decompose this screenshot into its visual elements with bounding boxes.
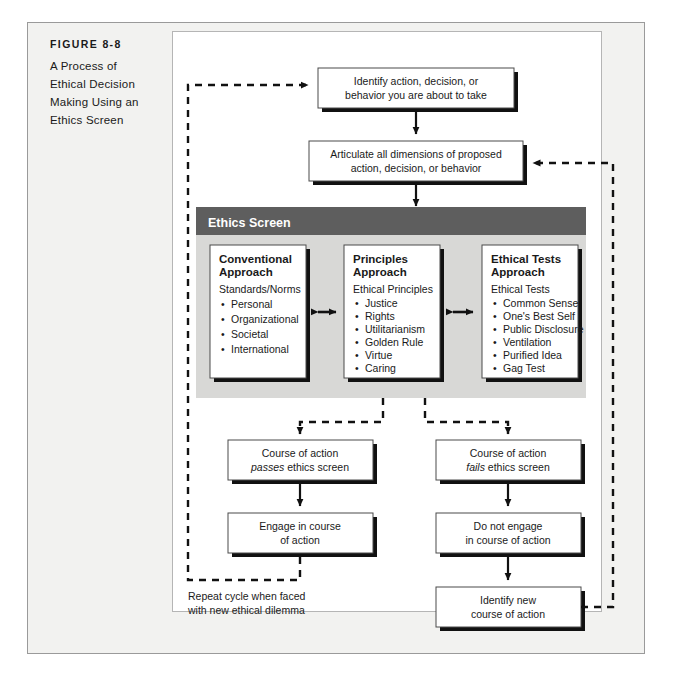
emphasis-fails: fails: [466, 461, 485, 473]
approach-item: Societal: [231, 328, 268, 340]
approach-item: Organizational: [231, 313, 299, 325]
box-line-rest: ethics screen: [488, 461, 550, 473]
approach-subhead: Ethical Tests: [491, 283, 550, 295]
box-body: [318, 68, 514, 108]
box-engage-in-course: Engage in course of action: [228, 513, 377, 557]
box-body: [228, 440, 373, 480]
bullet-marker: •: [221, 313, 225, 325]
approach-heading-line: Approach: [219, 266, 273, 278]
bullet-marker: •: [355, 336, 359, 348]
repeat-note-line: Repeat cycle when faced: [188, 590, 305, 602]
box-body: [309, 141, 523, 181]
bullet-marker: •: [221, 343, 225, 355]
box-course-fails: Course of action fails ethics screen: [436, 440, 585, 484]
box-line: Engage in course: [259, 520, 341, 532]
approach-heading-line: Approach: [491, 266, 545, 278]
bullet-marker: •: [493, 336, 497, 348]
bullet-marker: •: [355, 297, 359, 309]
bullet-marker: •: [493, 323, 497, 335]
box-line: Course of action: [470, 447, 547, 459]
box-line-italic-pair: passes ethics screen: [250, 461, 349, 473]
box-identify-action: Identify action, decision, or behavior y…: [318, 68, 518, 112]
approach-item: Rights: [365, 310, 395, 322]
approach-item: One's Best Self: [503, 310, 575, 322]
bullet-marker: •: [493, 297, 497, 309]
approach-item: Caring: [365, 362, 396, 374]
approach-item: Public Disclosure: [503, 323, 584, 335]
box-line: Identify action, decision, or: [354, 75, 479, 87]
box-body: [436, 587, 581, 627]
approach-item: Gag Test: [503, 362, 545, 374]
bullet-marker: •: [355, 349, 359, 361]
approach-item: Purified Idea: [503, 349, 562, 361]
bullet-marker: •: [493, 349, 497, 361]
approach-heading-line: Approach: [353, 266, 407, 278]
box-course-passes: Course of action passes ethics screen: [228, 440, 377, 484]
connector-screen-to-pass: [300, 398, 383, 434]
approach-box-ethical-tests: Ethical Tests Approach Ethical Tests • C…: [482, 245, 584, 382]
repeat-note-line: with new ethical dilemma: [187, 604, 305, 616]
bullet-marker: •: [493, 310, 497, 322]
approach-heading-line: Conventional: [219, 253, 292, 265]
emphasis-passes: passes: [250, 461, 285, 473]
box-line-italic-pair: fails ethics screen: [466, 461, 550, 473]
repeat-cycle-note: Repeat cycle when faced with new ethical…: [187, 590, 305, 616]
approach-heading-line: Ethical Tests: [491, 253, 561, 265]
bullet-marker: •: [355, 310, 359, 322]
bullet-marker: •: [221, 298, 225, 310]
bullet-marker: •: [493, 362, 497, 374]
box-line-rest: ethics screen: [287, 461, 349, 473]
box-line: Identify new: [480, 594, 536, 606]
box-line: Articulate all dimensions of proposed: [330, 148, 502, 160]
approach-item: International: [231, 343, 289, 355]
approach-item: Utilitarianism: [365, 323, 425, 335]
box-line: of action: [280, 534, 320, 546]
box-line: course of action: [471, 608, 545, 620]
box-body: [436, 440, 581, 480]
approach-subhead: Ethical Principles: [353, 283, 433, 295]
box-body: [436, 513, 581, 553]
figure-page: FIGURE 8-8 A Process of Ethical Decision…: [0, 0, 673, 679]
box-do-not-engage: Do not engage in course of action: [436, 513, 585, 557]
approach-box-conventional: Conventional Approach Standards/Norms • …: [210, 245, 310, 382]
approach-heading-line: Principles: [353, 253, 408, 265]
approach-box-principles: Principles Approach Ethical Principles •…: [344, 245, 444, 382]
approach-item: Justice: [365, 297, 398, 309]
approach-subhead: Standards/Norms: [219, 283, 301, 295]
approach-item: Ventilation: [503, 336, 552, 348]
box-line: action, decision, or behavior: [351, 162, 482, 174]
ethics-screen-title: Ethics Screen: [208, 216, 291, 230]
box-identify-new-course: Identify new course of action: [436, 587, 585, 631]
approach-item: Golden Rule: [365, 336, 424, 348]
approach-item: Virtue: [365, 349, 392, 361]
approach-item: Common Sense: [503, 297, 578, 309]
connector-screen-to-fail: [425, 398, 508, 434]
box-line: Do not engage: [474, 520, 543, 532]
box-articulate-dimensions: Articulate all dimensions of proposed ac…: [309, 141, 527, 185]
bullet-marker: •: [355, 362, 359, 374]
approach-item: Personal: [231, 298, 272, 310]
bullet-marker: •: [355, 323, 359, 335]
bullet-marker: •: [221, 328, 225, 340]
box-line: Course of action: [262, 447, 339, 459]
box-line: behavior you are about to take: [345, 89, 487, 101]
box-body: [228, 513, 373, 553]
box-line: in course of action: [465, 534, 550, 546]
flowchart: Ethics Screen Identify action, decision,…: [0, 0, 673, 679]
